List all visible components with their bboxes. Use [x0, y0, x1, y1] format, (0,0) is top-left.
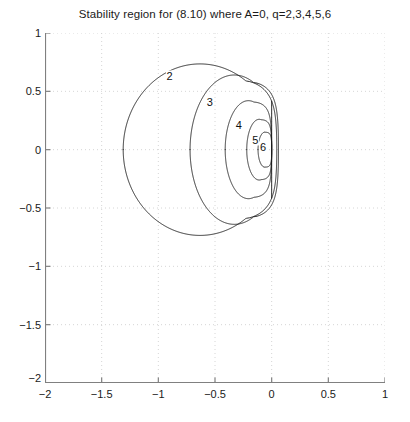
plot-area: 23456: [45, 33, 385, 383]
y-axis-tick-labels: −1.5−1−0.500.51: [0, 33, 41, 383]
curve-label-3: 3: [206, 97, 214, 108]
x-tick-label: −1: [128, 388, 188, 400]
figure-canvas: Stability region for (8.10) where A=0, q…: [0, 0, 410, 422]
y-tick-label: 0.5: [3, 85, 41, 97]
plot-svg: [45, 33, 385, 383]
x-tick-label: −1.5: [72, 388, 132, 400]
y-tick-label: −0.5: [3, 202, 41, 214]
x-axis-tick-labels: −2−1.5−1−0.500.51: [45, 388, 385, 406]
x-tick-label: 0.5: [298, 388, 358, 400]
curve-label-5: 5: [251, 134, 259, 145]
x-tick-label: −0.5: [185, 388, 245, 400]
y-tick-label: −1.5: [3, 319, 41, 331]
curve-label-6: 6: [259, 142, 267, 153]
x-tick-label: 0: [242, 388, 302, 400]
chart-title: Stability region for (8.10) where A=0, q…: [0, 8, 410, 20]
x-tick-label: 1: [355, 388, 410, 400]
curve-label-4: 4: [235, 119, 243, 130]
stability-curves: [123, 64, 278, 236]
y-tick-label: −1: [3, 260, 41, 272]
y-tick-label: 0: [3, 144, 41, 156]
curve-label-2: 2: [166, 71, 174, 82]
y-tick-label: 1: [3, 27, 41, 39]
x-tick-label: −2: [15, 388, 75, 400]
y-axis-min-label: −2: [0, 372, 41, 384]
grid-lines: [45, 33, 385, 383]
